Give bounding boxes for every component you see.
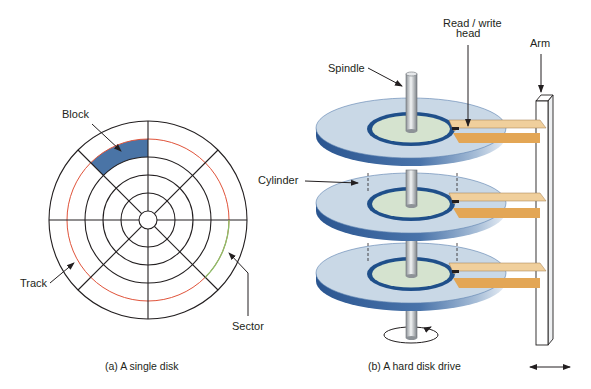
sector-arrow (229, 253, 248, 316)
spindle-top (406, 72, 417, 133)
panel-b-caption: (b) A hard disk drive (368, 360, 461, 372)
disk-platter-top-view (49, 121, 247, 319)
track-label: Track (20, 277, 48, 289)
spindle-label: Spindle (328, 62, 365, 74)
spindle-arrow (368, 68, 402, 86)
highlighted-sector (205, 220, 229, 277)
single-disk-panel: Block Track Sector (a) A single disk (20, 108, 264, 372)
block-label: Block (62, 108, 89, 120)
read-write-head-label-line2: head (456, 27, 480, 39)
hard-disk-drive-panel: Spindle Read / write head Arm Cylinder (… (258, 17, 570, 372)
arm-label: Arm (530, 37, 550, 49)
cylinder-label: Cylinder (258, 174, 299, 186)
panel-a-caption: (a) A single disk (105, 360, 179, 372)
platter-3 (316, 240, 506, 311)
track-arrow (50, 263, 74, 283)
hard-disk-diagram: Block Track Sector (a) A single disk (0, 0, 591, 389)
block-arrow (92, 124, 121, 151)
sector-label: Sector (232, 320, 264, 332)
actuator-arm (536, 95, 553, 345)
